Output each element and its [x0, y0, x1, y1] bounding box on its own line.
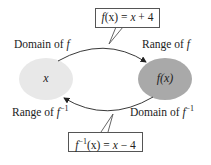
function-formula-box: f(x) = x + 4 — [95, 8, 160, 28]
range-of-f-inverse-label: Range of f−1 — [12, 104, 68, 118]
domain-ellipse-label: x — [36, 71, 56, 86]
forward-arrow — [58, 48, 146, 62]
domain-of-f-inverse-label: Domain of f−1 — [130, 104, 194, 118]
inverse-formula-box: f−1(x) = x − 4 — [68, 132, 143, 152]
bottom-callout-pointer — [101, 114, 113, 132]
domain-of-f-label: Domain of f — [14, 38, 70, 50]
range-of-f-label: Range of f — [142, 38, 190, 50]
top-callout-pointer — [109, 27, 123, 44]
range-ellipse-label: f(x) — [150, 71, 180, 86]
